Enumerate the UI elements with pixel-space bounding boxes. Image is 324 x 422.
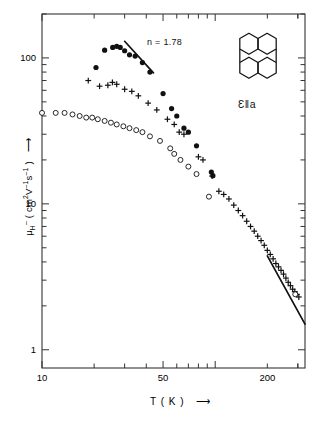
- perylene-structure-icon: [240, 33, 276, 78]
- plot-frame: [42, 14, 305, 368]
- x-axis-label-text: T ( K ): [150, 396, 185, 407]
- fit-lines: [125, 41, 305, 324]
- series-open-circles: [40, 110, 298, 296]
- x-tick-label: 10: [27, 372, 57, 383]
- y-axis-label: μH– ( cm2V–1s–1 ) ⟶: [22, 112, 36, 262]
- figure-panel: μH– ( cm2V–1s–1 ) ⟶ T ( K ) ⟶ n = 1.78 Ɛ…: [0, 0, 324, 422]
- y-tick-label: 1: [10, 344, 36, 355]
- y-tick-label: 10: [10, 198, 36, 209]
- x-tick-label: 200: [252, 372, 282, 383]
- x-axis-label: T ( K ) ⟶: [150, 396, 211, 407]
- data-series: [40, 44, 302, 300]
- x-axis-arrow-icon: ⟶: [196, 396, 211, 407]
- orientation-annotation: Ɛ‖a: [238, 98, 256, 110]
- y-axis-arrow-icon: ⟶: [23, 138, 34, 152]
- chart-canvas: [0, 0, 324, 422]
- y-tick-label: 100: [10, 52, 36, 63]
- exponent-annotation: n = 1.78: [147, 37, 182, 47]
- series-plus-markers: [85, 78, 301, 300]
- series-filled-circles: [93, 44, 215, 178]
- x-tick-label: 50: [148, 372, 178, 383]
- axis-ticks: [42, 14, 305, 368]
